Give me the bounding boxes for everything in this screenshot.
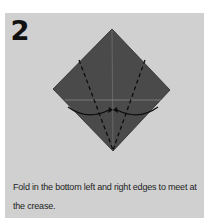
paper-diamond: [53, 29, 170, 151]
instruction-text: Fold in the bottom left and right edges …: [13, 178, 203, 216]
instruction-line-2: the crease.: [13, 197, 203, 216]
instruction-line-1: Fold in the bottom left and right edges …: [13, 178, 203, 197]
instruction-panel: 2 Fold in the bottom left and right edge…: [5, 13, 204, 218]
